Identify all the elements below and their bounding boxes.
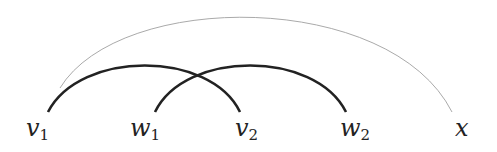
node-label-x: x	[455, 116, 469, 140]
node-subscript: 1	[40, 126, 50, 144]
node-subscript: 1	[151, 126, 161, 144]
node-base: v	[26, 114, 40, 142]
edge-w1-w2	[155, 66, 346, 113]
node-label-v1: v1	[26, 116, 49, 143]
node-base: w	[130, 114, 151, 142]
node-subscript: 2	[361, 126, 371, 144]
edge-v1-v2	[48, 66, 240, 113]
node-label-w1: w1	[130, 116, 160, 143]
node-base: v	[235, 114, 249, 142]
node-subscript: 2	[249, 126, 259, 144]
node-label-v2: v2	[235, 116, 258, 143]
node-base: x	[455, 114, 469, 142]
node-label-w2: w2	[340, 116, 370, 143]
node-base: w	[340, 114, 361, 142]
